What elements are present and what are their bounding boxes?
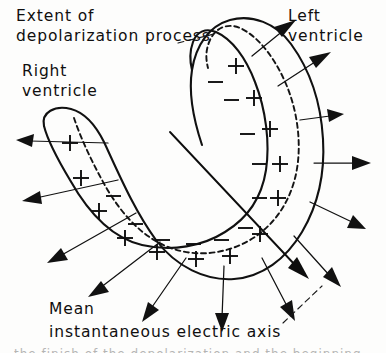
dipole-vector-1 — [16, 134, 108, 147]
dipole-vector-12 — [278, 52, 331, 86]
label-right-ventricle-line2: ventricle — [22, 82, 98, 100]
label-left-ventricle-line1: Left — [288, 7, 321, 25]
mean-electric-axis-arrow — [170, 132, 309, 279]
polarity-pair-9 — [252, 190, 286, 206]
polarity-pair-4 — [117, 224, 143, 246]
polarity-pair-10 — [252, 156, 288, 172]
label-right-ventricle-line1: Right — [22, 62, 67, 80]
label-mean-line2: instantaneous electric axis — [49, 323, 281, 341]
label-mean: Mean — [49, 300, 95, 320]
label-right-ventricle: Rightventricle — [22, 62, 98, 101]
polarity-pair-8 — [238, 226, 268, 242]
plus-sign — [270, 190, 286, 206]
depolarization-wavefront — [74, 26, 299, 253]
ventricular-depolarization-figure: Extent ofdepolarization process Rightven… — [0, 0, 386, 353]
dipole-vector-8 — [294, 236, 341, 287]
page-edge-text-fragment: the finish of the depolarization and the… — [14, 347, 374, 353]
label-instantaneous-electric-axis: instantaneous electric axis — [49, 323, 281, 343]
label-left-ventricle: Leftventricle — [288, 7, 364, 46]
plus-sign — [262, 121, 278, 137]
label-left-ventricle-line2: ventricle — [288, 27, 364, 45]
polarity-pair-13 — [208, 58, 244, 82]
label-mean-line1: Mean — [49, 300, 95, 318]
plus-sign — [62, 135, 78, 151]
polarity-pair-6 — [186, 244, 204, 267]
dipole-vector-4 — [88, 242, 160, 297]
plus-sign — [228, 58, 244, 74]
polarity-pair-1 — [62, 135, 78, 151]
dipole-vector-5 — [142, 258, 186, 322]
plus-sign — [117, 230, 133, 246]
plus-sign — [222, 248, 238, 264]
plus-sign — [272, 156, 288, 172]
epicardial-outline — [44, 18, 324, 279]
polarity-pair-12 — [224, 90, 262, 106]
plus-sign — [91, 203, 107, 219]
dipole-vector-2 — [22, 180, 118, 204]
leader-lines — [178, 34, 322, 323]
label-extent-line1: Extent of — [16, 7, 94, 25]
label-extent-of-depolarization: Extent ofdepolarization process — [16, 7, 211, 46]
plus-sign — [73, 170, 89, 186]
polarity-pair-2 — [73, 170, 89, 186]
label-extent-line2: depolarization process — [16, 27, 211, 45]
dipole-vector-9 — [310, 202, 366, 229]
polarity-pair-11 — [240, 121, 278, 137]
